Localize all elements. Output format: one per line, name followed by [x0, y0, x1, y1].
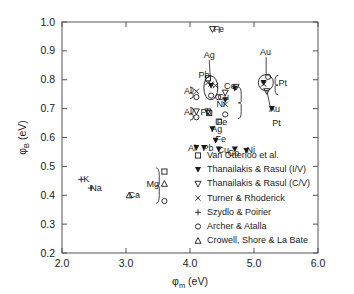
annotation-Al-16: Al — [188, 143, 196, 153]
legend-marker-1 — [195, 167, 201, 173]
annotation-Pt-3: Pt — [279, 78, 288, 88]
data-point-Mg — [162, 198, 167, 203]
bracket-ni — [238, 87, 241, 119]
annotation-K-22: K — [83, 174, 89, 184]
legend-label-4: Szydlo & Poirier — [207, 207, 271, 217]
annotation-Mg-21: Mg — [147, 179, 160, 189]
annotation-Fe-0: Fe — [214, 24, 225, 34]
legend-marker-0 — [195, 153, 200, 158]
data-point-Al — [194, 89, 199, 94]
x-tick-label: 2.0 — [55, 257, 70, 269]
legend-label-2: Thanailakis & Rasul (C/V) — [207, 178, 310, 188]
annotation-Ag-1: Ag — [204, 50, 215, 60]
y-tick-label: 0.2 — [40, 247, 55, 259]
legend-label-3: Turner & Rhoderick — [207, 193, 285, 203]
data-point-Au — [261, 80, 267, 86]
y-axis-label: φB (eV) — [16, 120, 31, 155]
annotation-Ag-14: Ag — [211, 124, 222, 134]
data-point-Mg — [162, 169, 167, 174]
data-points — [78, 27, 275, 204]
x-axis-label: φm (eV) — [172, 275, 208, 290]
legend-label-5: Archer & Atalla — [207, 221, 267, 231]
x-tick-label: 3.0 — [119, 257, 134, 269]
scatter-chart: 0.20.30.40.50.60.70.80.91.02.03.04.05.06… — [0, 0, 354, 294]
y-tick-label: 0.7 — [40, 102, 55, 114]
annotation-Pb-8: Pb — [200, 107, 211, 117]
annotation-Au-12: Au — [269, 104, 280, 114]
y-tick-label: 0.3 — [40, 218, 55, 230]
legend-marker-5 — [195, 224, 200, 229]
data-point-Al — [194, 94, 199, 99]
y-tick-label: 0.9 — [40, 44, 55, 56]
y-tick-label: 0.8 — [40, 73, 55, 85]
y-tick-label: 0.5 — [40, 160, 55, 172]
annotation-Pt-13: Pt — [272, 118, 281, 128]
y-tick-label: 1.0 — [40, 16, 55, 28]
legend-marker-6 — [195, 238, 201, 244]
chart-canvas: 0.20.30.40.50.60.70.80.91.02.03.04.05.06… — [0, 0, 354, 294]
annotation-Au-2: Au — [260, 47, 271, 57]
x-tick-label: 6.0 — [311, 257, 326, 269]
annotation-Ca-24: Ca — [129, 190, 141, 200]
x-tick-label: 4.0 — [183, 257, 198, 269]
annotation-Co-4: Co — [224, 81, 236, 91]
legend-label-6: Crowell, Shore & La Bate — [207, 235, 308, 245]
annotation-Ni-11: Ni — [216, 99, 225, 109]
data-point-Mg — [161, 181, 167, 187]
legend-marker-2 — [195, 181, 201, 187]
legend-marker-3 — [195, 196, 200, 201]
annotation-Al-6: Al — [184, 86, 192, 96]
data-point-Al — [193, 109, 199, 115]
y-tick-label: 0.6 — [40, 131, 55, 143]
legend-marker-4 — [195, 209, 201, 215]
legend-label-0: Van Otterloo et al. — [207, 150, 279, 160]
plot-frame — [62, 22, 318, 253]
annotation-Pb-5: Pb — [199, 70, 210, 80]
y-tick-label: 0.4 — [40, 189, 55, 201]
legend-label-1: Thanailakis & Rasul (I/V) — [207, 164, 306, 174]
legend: Van Otterloo et al.Thanailakis & Rasul (… — [195, 150, 310, 245]
data-point-Ag — [209, 93, 214, 98]
annotation-Na-23: Na — [90, 183, 102, 193]
annotation-Al-9: Al — [184, 107, 192, 117]
annotation-Fe-15: Fe — [215, 134, 226, 144]
x-tick-label: 5.0 — [247, 257, 262, 269]
